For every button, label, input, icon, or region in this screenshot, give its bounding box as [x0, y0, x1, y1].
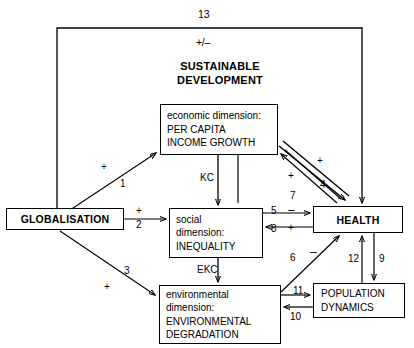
edge-label-13: 13	[198, 8, 210, 20]
node-globalisation[interactable]: GLOBALISATION	[6, 208, 124, 230]
edge-label-kc: KC	[200, 172, 214, 183]
node-population-dynamics[interactable]: POPULATION DYNAMICS	[313, 283, 405, 318]
node-globalisation-label: GLOBALISATION	[21, 213, 110, 225]
edge-label-5: 5	[271, 205, 277, 216]
sustainable-development-diagram: GLOBALISATION economic dimension: PER CA…	[0, 0, 414, 348]
edge-sign-13: +/–	[196, 36, 210, 48]
edge-label-ekc: EKC	[197, 264, 218, 275]
node-social-line1: social	[176, 213, 262, 227]
edge-label-12: 12	[348, 253, 359, 264]
edge-sign-5: –	[288, 203, 295, 217]
edge-sign-2: +	[136, 205, 142, 216]
edge-label-2: 2	[136, 219, 142, 230]
edge-label-6: 6	[290, 252, 296, 263]
node-social-dimension[interactable]: social dimension: INEQUALITY	[169, 208, 263, 258]
node-population-line2: DYNAMICS	[321, 301, 404, 314]
diagram-title-line1: SUSTAINABLE	[180, 60, 260, 72]
edge-sign-3: +	[104, 281, 110, 292]
edge-label-9: 9	[379, 253, 385, 264]
node-environmental-line4: DEGRADATION	[166, 328, 280, 341]
node-economic-line3: INCOME GROWTH	[167, 136, 277, 150]
node-environmental-line3: ENVIRONMENTAL	[166, 315, 280, 328]
diagram-title-line2: DEVELOPMENT	[177, 74, 263, 86]
node-economic-line2: PER CAPITA	[167, 123, 277, 137]
edge-label-3: 3	[124, 265, 130, 276]
diagram-title: SUSTAINABLE DEVELOPMENT	[170, 60, 270, 87]
edge-label-11: 11	[293, 285, 303, 296]
edge-sign-1: +	[101, 161, 107, 172]
node-economic-line1: economic dimension:	[167, 109, 277, 123]
edge-label-1: 1	[120, 178, 126, 189]
node-environmental-dimension[interactable]: environmental dimension: ENVIRONMENTAL D…	[159, 285, 281, 344]
edge-sign-6: –	[310, 245, 317, 259]
edge-label-10: 10	[290, 311, 301, 322]
node-social-line2: dimension:	[176, 226, 262, 240]
node-environmental-line2: dimension:	[166, 301, 280, 314]
edge-label-8: 8	[271, 223, 277, 234]
node-health-label: HEALTH	[336, 214, 379, 226]
edge-sign-7: +	[288, 170, 294, 181]
node-environmental-line1: environmental	[166, 288, 280, 301]
edge-label-7: 7	[290, 190, 296, 201]
node-population-line1: POPULATION	[321, 287, 404, 300]
node-economic-dimension[interactable]: economic dimension: PER CAPITA INCOME GR…	[160, 104, 278, 155]
edge-sign-4: +	[317, 155, 323, 166]
node-health[interactable]: HEALTH	[313, 206, 403, 233]
edge-label-4: 4	[320, 179, 326, 190]
edge-sign-8: +	[288, 222, 294, 233]
node-social-line3: INEQUALITY	[176, 240, 262, 254]
